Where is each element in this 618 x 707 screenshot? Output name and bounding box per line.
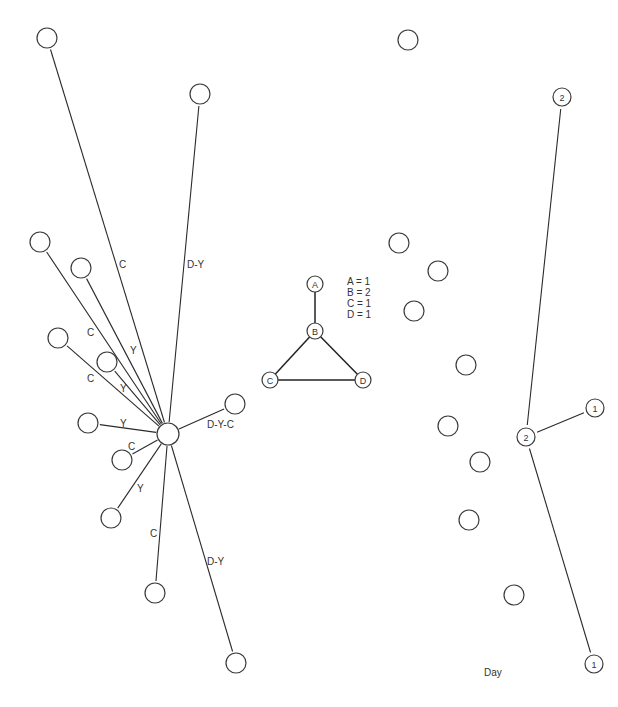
spoke-node [101,508,121,528]
isolated-node [438,416,458,436]
spoke-node [37,28,57,48]
edge-label: Y [120,383,127,394]
tree-edge [529,448,590,652]
isolated-node [504,585,524,605]
node-count-label: 2 [523,433,528,443]
spoke-node [71,258,91,278]
spoke-edge [171,446,232,652]
edge-label: Y [130,345,137,356]
spoke-node [48,328,68,348]
spoke-edge [100,425,156,433]
isolated-node [404,301,424,321]
tree-edge [527,109,560,425]
edge-label: Y [137,483,144,494]
spoke-node [226,653,246,673]
spoke-node [97,352,117,372]
node-count-label: 1 [591,660,596,670]
triangle-edge [275,337,309,374]
edge-label: D-Y [187,259,205,270]
left-star-graph: CD-YCYCYYCYCD-YD-Y-C [30,28,246,673]
edge-label: C [87,327,94,338]
spoke-node [190,84,210,104]
hub-node [157,423,179,445]
spoke-node [145,583,165,603]
triangle-edge [321,337,358,375]
node-label: C [267,376,274,386]
node-label: B [312,327,318,337]
isolated-node [470,452,490,472]
spoke-edge [156,446,167,581]
node-count-label: 2 [559,93,564,103]
spoke-edge [87,279,163,424]
node-count-label: 1 [592,404,597,414]
isolated-nodes [389,30,524,605]
spoke-node [30,232,50,252]
isolated-node [389,233,409,253]
edge-label: C [150,528,157,539]
spoke-node [112,450,132,470]
spoke-edge [115,371,160,425]
node-label: A [312,280,318,290]
legend-line: A = 1 [347,276,371,287]
isolated-node [428,261,448,281]
spoke-edge [132,440,157,454]
node-label: D [360,376,367,386]
edge-label: C [128,441,135,452]
edge-label: C [87,373,94,384]
edge-label: C [119,259,126,270]
isolated-node [456,355,476,375]
legend-line: C = 1 [347,298,372,309]
diagram-canvas: CD-YCYCYYCYCD-YD-Y-C ABCDA = 1B = 2C = 1… [0,0,618,707]
right-tree-graph: 2211 [517,88,604,673]
spoke-node [225,394,245,414]
isolated-node [459,510,479,530]
edge-label: D-Y-C [207,419,234,430]
tree-edge [537,413,584,433]
legend-line: B = 2 [347,287,371,298]
edge-label: D-Y [207,556,225,567]
spoke-node [78,413,98,433]
isolated-node [398,30,418,50]
edge-label: Y [120,418,127,429]
triangle-graph: ABCDA = 1B = 2C = 1D = 1 [262,276,372,388]
caption-day: Day [484,667,502,678]
legend-line: D = 1 [347,309,372,320]
